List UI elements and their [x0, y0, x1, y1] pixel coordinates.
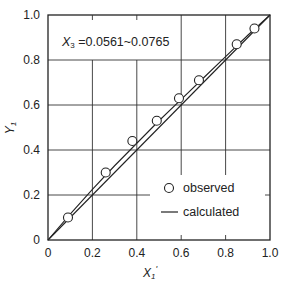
x-tick-label: 0: [45, 246, 52, 260]
x-tick-label: 1.0: [262, 246, 279, 260]
observed-point-marker: [63, 213, 72, 222]
y-tick-label: 0.8: [23, 53, 40, 67]
observed-point-marker: [128, 137, 137, 146]
x-tick-label: 0.8: [217, 246, 234, 260]
x-tick-label: 0.4: [128, 246, 145, 260]
y-tick-label: 0.2: [23, 188, 40, 202]
observed-point-marker: [194, 76, 203, 85]
observed-point-marker: [232, 40, 241, 49]
y-axis-label: Y1: [3, 122, 18, 134]
annotation-x3-range: X3 =0.0561~0.0765: [61, 35, 169, 50]
legend-calculated-label: calculated: [183, 205, 239, 219]
observed-point-marker: [152, 116, 161, 125]
observed-point-marker: [250, 24, 259, 33]
legend-observed-marker-icon: [165, 184, 174, 193]
chart: 00.20.40.60.81.000.20.40.60.81.0 X3 =0.0…: [0, 0, 286, 287]
y-tick-label: 1.0: [23, 8, 40, 22]
y-tick-label: 0: [33, 233, 40, 247]
x-axis-label: X1': [142, 264, 157, 281]
y-tick-label: 0.6: [23, 98, 40, 112]
y-tick-label: 0.4: [23, 143, 40, 157]
legend: observed calculated: [161, 181, 239, 219]
legend-observed-label: observed: [183, 181, 234, 195]
observed-point-marker: [101, 168, 110, 177]
x-tick-label: 0.2: [84, 246, 101, 260]
x-tick-label: 0.6: [173, 246, 190, 260]
observed-point-marker: [174, 94, 183, 103]
